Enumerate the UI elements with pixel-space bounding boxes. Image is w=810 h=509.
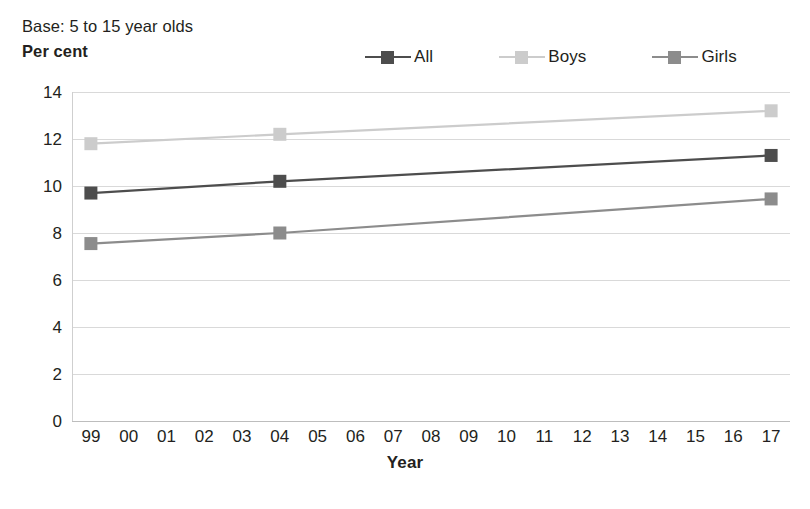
x-axis-tick: 16 [724,428,743,445]
y-axis-tick: 8 [16,225,62,242]
x-axis-tick: 05 [308,428,327,445]
y-axis-tick: 14 [16,84,62,101]
y-axis-line [72,92,73,422]
x-axis-tick: 10 [497,428,516,445]
gridline [72,233,790,234]
x-axis-tick: 06 [346,428,365,445]
x-axis-tick: 00 [119,428,138,445]
x-axis-tick: 11 [536,428,554,445]
gridline [72,139,790,140]
x-axis-title: Year [0,453,810,473]
plot-area [72,92,790,421]
x-axis-tick: 12 [573,428,592,445]
x-axis-tick: 02 [195,428,214,445]
x-axis-tick: 13 [610,428,629,445]
gridline [72,186,790,187]
gridline [72,374,790,375]
gridline [72,92,790,93]
x-axis-tick: 07 [384,428,403,445]
y-axis-tick: 10 [16,178,62,195]
gridline [72,327,790,328]
y-axis-tick: 6 [16,272,62,289]
x-axis-tick: 08 [422,428,441,445]
x-axis-tick: 99 [81,428,100,445]
y-axis-tick: 12 [16,131,62,148]
x-axis-line [72,421,790,422]
y-axis-tick: 2 [16,366,62,383]
y-axis-tick: 0 [16,413,62,430]
x-axis-tick-labels: 99000102030405060708091011121314151617 [72,428,790,452]
y-axis-tick: 4 [16,319,62,336]
gridline [72,280,790,281]
x-axis-tick: 15 [686,428,705,445]
x-axis-tick: 04 [270,428,289,445]
x-axis-tick: 03 [233,428,252,445]
chart-plot: 14121086420 9900010203040506070809101112… [0,0,810,509]
x-axis-tick: 14 [648,428,667,445]
x-axis-tick: 17 [762,428,781,445]
x-axis-tick: 01 [157,428,176,445]
x-axis-tick: 09 [459,428,478,445]
